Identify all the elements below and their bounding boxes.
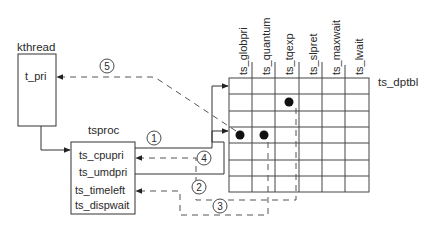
col-header-ts-globpri: ts_globpri	[237, 27, 249, 75]
ts-dptbl-label: ts_dptbl	[378, 76, 418, 88]
svg-text:5: 5	[104, 61, 110, 72]
svg-text:2: 2	[196, 182, 202, 193]
col-header-ts-tqexp: ts_tqexp	[283, 33, 295, 75]
step-4-arrow	[212, 131, 228, 142]
ts-timeleft-field: ts_timeleft	[75, 184, 125, 196]
kthread-label: kthread	[17, 41, 55, 53]
marked-cell-dot	[285, 98, 294, 107]
ts-cpupri-field: ts_cpupri	[79, 149, 124, 161]
step-2-arrow	[136, 108, 296, 200]
marked-cell-dot	[236, 131, 245, 140]
kthread-box	[18, 54, 56, 126]
step-4-marker: 4	[197, 151, 211, 165]
step-2-marker: 2	[192, 180, 206, 194]
tsproc-struct: tsproc ts_cpupri ts_umdpri ts_timeleft t…	[71, 124, 135, 214]
ts-dptbl-table: ts_dptbl ts_globpri ts_quantum ts_tqexp …	[229, 18, 418, 192]
step-1-marker: 1	[147, 131, 161, 145]
scheduling-diagram: kthread t_pri tsproc ts_cpupri ts_umdpri…	[0, 0, 429, 229]
kthread-struct: kthread t_pri	[17, 41, 56, 126]
step-3-marker: 3	[213, 199, 227, 213]
ts-umdpri-field: ts_umdpri	[79, 166, 127, 178]
t-pri-field: t_pri	[25, 70, 46, 82]
col-header-ts-slpret: ts_slpret	[307, 33, 319, 75]
ts-dispwait-field: ts_dispwait	[75, 199, 129, 211]
col-header-ts-maxwait: ts_maxwait	[330, 20, 342, 75]
col-header-ts-lwait: ts_lwait	[353, 38, 365, 75]
marked-cell-dot	[260, 131, 269, 140]
svg-text:3: 3	[217, 201, 223, 212]
col-header-ts-quantum: ts_quantum	[260, 18, 272, 75]
step-5-marker: 5	[100, 59, 114, 73]
svg-text:4: 4	[201, 153, 207, 164]
kthread-to-tsproc-arrow	[41, 126, 70, 150]
svg-text:1: 1	[151, 133, 157, 144]
tsproc-label: tsproc	[88, 124, 120, 136]
step-5-arrow	[57, 77, 236, 131]
